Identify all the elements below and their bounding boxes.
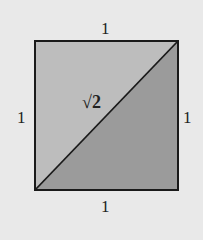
left-side-label: 1 (17, 109, 26, 126)
right-side-label: 1 (183, 109, 192, 126)
top-side-label: 1 (101, 20, 110, 37)
bottom-side-label: 1 (101, 198, 110, 215)
diagonal-label: √2 (82, 93, 101, 111)
